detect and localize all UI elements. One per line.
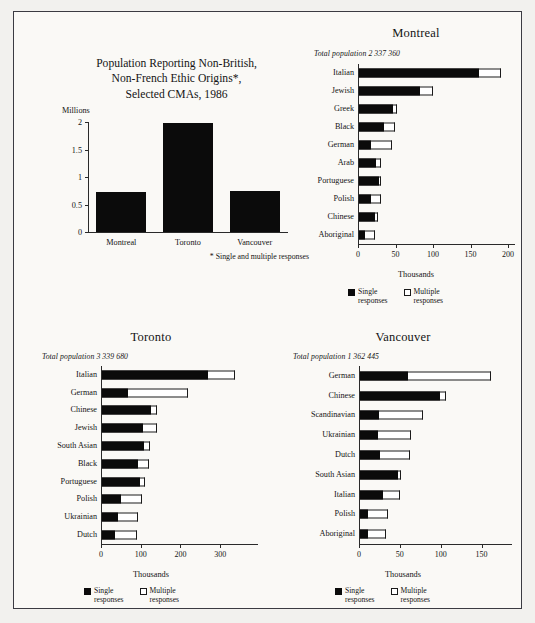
stacked-bar [101, 370, 235, 379]
bar-segment-single [359, 470, 398, 479]
overview-axis-tick [85, 177, 88, 178]
overview-category-label: Vancouver [237, 238, 272, 247]
bar-segment-multiple [420, 87, 433, 96]
bar-category-label: Chinese [310, 213, 358, 221]
bar-category-label: Black [36, 460, 101, 468]
stacked-bar [359, 470, 401, 479]
stacked-bar [358, 195, 381, 204]
montreal-x-axis: 050100150200 [310, 244, 515, 270]
bar-segment-multiple [371, 141, 392, 150]
stacked-bar [359, 431, 411, 440]
overview-axis-tick [85, 150, 88, 151]
bar-segment-multiple [408, 371, 491, 380]
bar-segment-multiple [379, 411, 422, 420]
bar-segment-multiple [368, 530, 386, 539]
vancouver-bars: GermanChineseScandinavianUkrainianDutchS… [287, 366, 512, 544]
bar-category-label: Chinese [36, 406, 101, 414]
bar-row: Dutch [287, 445, 512, 465]
bar-category-label: Aboriginal [310, 231, 358, 239]
figure-page: Population Reporting Non-British, Non-Fr… [13, 11, 522, 609]
stacked-bar [359, 490, 400, 499]
bar-segment-single [101, 531, 115, 540]
bar-category-label: Chinese [287, 392, 359, 400]
legend-item-multiple[interactable]: Multipleresponses [404, 288, 444, 305]
montreal-chart: Montreal Total population 2 337 360 Ital… [310, 26, 522, 318]
bar-track [101, 402, 258, 420]
bar-row: South Asian [287, 465, 512, 485]
legend-swatch-single-icon [335, 588, 342, 595]
axis-tick [433, 244, 434, 248]
stacked-bar [358, 177, 381, 186]
bar-row: Chinese [287, 386, 512, 406]
bar-segment-multiple [151, 406, 156, 415]
bar-segment-single [359, 411, 379, 420]
bar-row: South Asian [36, 437, 258, 455]
bar-row: Polish [310, 190, 515, 208]
bar-row: Arab [310, 154, 515, 172]
bar-category-label: Greek [310, 105, 358, 113]
bar-track [359, 524, 512, 544]
stacked-bar [359, 391, 446, 400]
axis-tick [359, 544, 360, 548]
stacked-bar [358, 159, 381, 168]
bar-track [358, 64, 515, 82]
legend-item-multiple[interactable]: Multipleresponses [140, 587, 180, 604]
bar-track [101, 437, 258, 455]
bar-segment-multiple [115, 531, 137, 540]
axis-tick [180, 544, 181, 548]
bar-category-label: South Asian [287, 471, 359, 479]
bar-segment-single [359, 510, 368, 519]
bar-segment-single [358, 213, 375, 222]
bar-segment-single [358, 141, 371, 150]
axis-tick-label: 200 [174, 550, 186, 559]
bar-segment-multiple [118, 513, 138, 522]
overview-chart: Population Reporting Non-British, Non-Fr… [44, 56, 309, 266]
bar-category-label: Italian [310, 69, 358, 77]
bar-segment-single [358, 195, 371, 204]
overview-bar [163, 123, 213, 232]
legend-item-single[interactable]: Singleresponses [335, 587, 375, 604]
stacked-bar [358, 231, 375, 240]
bar-category-label: German [287, 372, 359, 380]
toronto-x-axis-title: Thousands [36, 570, 266, 579]
bar-track [359, 406, 512, 426]
bar-row: Chinese [310, 208, 515, 226]
bar-segment-single [358, 69, 479, 78]
value-axis-line [359, 544, 512, 545]
bar-segment-single [359, 451, 380, 460]
overview-axis-tick [85, 122, 88, 123]
overview-category-label: Montreal [106, 238, 136, 247]
axis-tick-label: 0 [99, 550, 103, 559]
bar-segment-multiple [440, 391, 446, 400]
bar-segment-single [101, 370, 208, 379]
axis-tick-label: 50 [392, 250, 400, 259]
toronto-x-axis: 0100200300 [36, 544, 258, 570]
bar-track [358, 172, 515, 190]
bar-segment-single [358, 231, 365, 240]
bar-track [358, 208, 515, 226]
bar-segment-multiple [398, 470, 401, 479]
legend-label-line-2: responses [414, 297, 444, 306]
legend-item-single[interactable]: Singleresponses [348, 288, 388, 305]
bar-segment-multiple [140, 477, 145, 486]
stacked-bar [101, 531, 137, 540]
legend-label-line-2: responses [345, 596, 375, 605]
stacked-bar [101, 513, 138, 522]
bar-track [358, 154, 515, 172]
stacked-bar [101, 424, 157, 433]
bar-track [358, 190, 515, 208]
legend-swatch-single-icon [84, 588, 91, 595]
bar-segment-multiple [376, 159, 381, 168]
bar-track [101, 384, 258, 402]
stacked-bar [358, 105, 397, 114]
legend-item-single[interactable]: Singleresponses [84, 587, 124, 604]
bar-segment-single [358, 105, 393, 114]
value-axis-line [358, 244, 515, 245]
vancouver-x-axis: 050100150 [287, 544, 512, 570]
legend-item-multiple[interactable]: Multipleresponses [391, 587, 431, 604]
bar-category-label: Jewish [310, 87, 358, 95]
axis-tick [508, 244, 509, 248]
bar-track [359, 465, 512, 485]
bar-category-label: Ukrainian [36, 513, 101, 521]
bar-segment-multiple [121, 495, 142, 504]
